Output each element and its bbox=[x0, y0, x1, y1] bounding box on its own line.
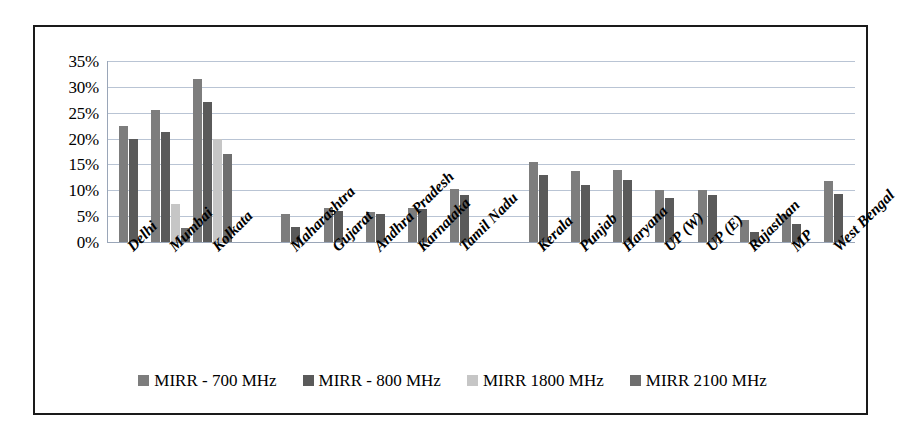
chart-legend: MIRR - 700 MHzMIRR - 800 MHzMIRR 1800 MH… bbox=[35, 365, 870, 395]
legend-item[interactable]: MIRR 2100 MHz bbox=[630, 372, 767, 389]
bar-group bbox=[107, 61, 149, 242]
bar bbox=[571, 171, 580, 242]
y-axis-tick-label: 25% bbox=[68, 104, 99, 121]
bar bbox=[613, 170, 622, 242]
bar-group bbox=[149, 61, 191, 242]
y-axis-tick-label: 5% bbox=[77, 208, 99, 225]
legend-swatch-icon bbox=[467, 375, 478, 386]
y-axis-tick-label: 35% bbox=[68, 53, 99, 70]
bar-group bbox=[813, 61, 855, 242]
y-axis-tick-label: 0% bbox=[77, 234, 99, 251]
legend-swatch-icon bbox=[630, 375, 641, 386]
bar bbox=[213, 139, 222, 242]
y-axis-tick-label: 20% bbox=[68, 130, 99, 147]
legend-item[interactable]: MIRR - 800 MHz bbox=[303, 372, 441, 389]
chart-frame: 35%30%25%20%15%10%5%0% DelhiMumbaiKolkat… bbox=[33, 25, 868, 415]
bar bbox=[119, 126, 128, 242]
legend-item[interactable]: MIRR - 700 MHz bbox=[138, 372, 276, 389]
y-axis-tick-label: 10% bbox=[68, 182, 99, 199]
y-axis-tick-label: 30% bbox=[68, 78, 99, 95]
y-axis: 35%30%25%20%15%10%5%0% bbox=[41, 61, 99, 242]
bar bbox=[129, 139, 138, 242]
legend-item[interactable]: MIRR 1800 MHz bbox=[467, 372, 604, 389]
bar-group bbox=[270, 61, 312, 242]
bar bbox=[824, 181, 833, 242]
bar bbox=[161, 132, 170, 242]
legend-label: MIRR 1800 MHz bbox=[483, 372, 604, 389]
legend-label: MIRR - 800 MHz bbox=[319, 372, 441, 389]
bar bbox=[529, 162, 538, 242]
plot-region: 35%30%25%20%15%10%5%0% DelhiMumbaiKolkat… bbox=[35, 27, 870, 357]
legend-swatch-icon bbox=[303, 375, 314, 386]
legend-label: MIRR - 700 MHz bbox=[154, 372, 276, 389]
bar-group bbox=[517, 61, 559, 242]
legend-swatch-icon bbox=[138, 375, 149, 386]
x-axis-category-labels: DelhiMumbaiKolkataMaharashtraGujaratAndh… bbox=[107, 243, 855, 355]
y-axis-tick-label: 15% bbox=[68, 156, 99, 173]
legend-label: MIRR 2100 MHz bbox=[646, 372, 767, 389]
